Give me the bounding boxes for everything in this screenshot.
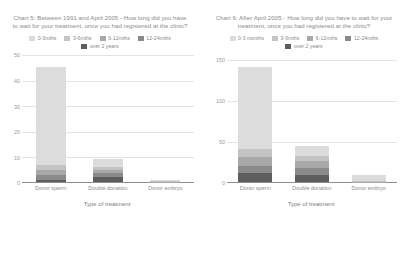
y-tick-50: 50	[14, 52, 20, 58]
y-tick-50: 50	[219, 139, 225, 145]
legend-swatch-over-2-years	[81, 44, 87, 49]
seg-0-3mths	[238, 67, 272, 150]
x-label-donor-sperm: Donor sperm	[235, 185, 275, 191]
seg-6-12mths	[238, 157, 272, 166]
legend-item-3-6mths: 3-6mths	[272, 35, 299, 41]
seg-3-6mths	[238, 149, 272, 156]
x-label-double-donation: Double donation	[88, 185, 128, 191]
legend-swatch-3-6mths	[64, 36, 70, 41]
chart-6-legend: 0-3 months 3-6mths 6-12mths 12-24mths ov…	[220, 35, 388, 49]
legend-label-12-24mths: 12-24mths	[354, 35, 379, 41]
chart-6-y-axis: 150 100 50 0	[211, 55, 227, 183]
legend-label-3-6mths: 3-6mths	[281, 35, 300, 41]
legend-swatch-3-6mths	[272, 36, 278, 41]
chart-5-x-axis-title: Type of treatment	[6, 201, 194, 207]
chart-5-plot	[22, 55, 194, 183]
bar-donor-sperm[interactable]	[36, 67, 66, 182]
seg-12-24mths	[238, 166, 272, 173]
x-label-donor-embryo: Donor embryo	[349, 185, 389, 191]
y-tick-20: 20	[14, 129, 20, 135]
seg-12-24mths	[295, 168, 329, 175]
seg-over-2-years	[93, 177, 123, 182]
chart-6-title: Chart 6: After April 2005 - How long did…	[214, 14, 394, 30]
chart-6-plot	[227, 55, 397, 183]
chart-5-legend: 0-3mths 3-6mths 6-12mths 12-24mths over …	[16, 35, 184, 49]
legend-swatch-0-3mths	[29, 36, 35, 41]
seg-6-12mths	[150, 182, 180, 183]
seg-6-12mths	[295, 161, 329, 168]
legend-swatch-over-2-years	[285, 44, 291, 49]
bar-double-donation[interactable]	[93, 159, 123, 182]
legend-item-12-24mths: 12-24mths	[345, 35, 378, 41]
x-label-donor-embryo: Donor embryo	[145, 185, 185, 191]
seg-over-2-years	[36, 180, 66, 183]
legend-label-3-6mths: 3-6mths	[73, 35, 92, 41]
chart-panel-6: Chart 6: After April 2005 - How long did…	[202, 0, 404, 263]
legend-item-over-2-years: over 2 years	[81, 43, 118, 49]
legend-item-0-3-months: 0-3 months	[230, 35, 264, 41]
legend-swatch-6-12mths	[307, 36, 313, 41]
bar-donor-embryo[interactable]	[150, 180, 180, 183]
seg-0-3mths	[93, 159, 123, 167]
legend-item-12-24mths: 12-24mths	[138, 35, 171, 41]
chart-panel-5: Chart 5: Between 1991 and April 2005 - H…	[0, 0, 202, 263]
y-tick-150: 150	[216, 57, 225, 63]
seg-over-2-years	[238, 173, 272, 182]
bar-donor-embryo[interactable]	[352, 175, 386, 182]
legend-item-over-2-years: over 2 years	[285, 43, 322, 49]
legend-label-over-2-years: over 2 years	[90, 43, 119, 49]
bar-donor-sperm[interactable]	[238, 67, 272, 182]
chart-6-x-axis-title: Type of treatment	[210, 201, 398, 207]
chart-5-title: Chart 5: Between 1991 and April 2005 - H…	[12, 14, 188, 30]
chart-6-x-labels: Donor sperm Double donation Donor embryo	[211, 185, 397, 191]
chart-5-x-labels: Donor sperm Double donation Donor embryo	[6, 185, 194, 191]
y-tick-100: 100	[216, 98, 225, 104]
chart-5-y-axis: 50 40 30 20 10 0	[6, 55, 22, 183]
legend-label-6-12mths: 6-12mths	[108, 35, 130, 41]
bar-double-donation[interactable]	[295, 146, 329, 182]
charts-page: Chart 5: Between 1991 and April 2005 - H…	[0, 0, 404, 263]
y-tick-40: 40	[14, 78, 20, 84]
legend-item-6-12mths: 6-12mths	[100, 35, 130, 41]
chart-5-plot-area: 50 40 30 20 10 0	[6, 55, 194, 183]
legend-label-0-3-months: 0-3 months	[238, 35, 264, 41]
legend-label-over-2-years: over 2 years	[294, 43, 323, 49]
legend-swatch-12-24mths	[138, 36, 144, 41]
legend-item-3-6mths: 3-6mths	[64, 35, 91, 41]
seg-over-2-years	[295, 175, 329, 182]
legend-label-6-12mths: 6-12mths	[316, 35, 338, 41]
y-tick-10: 10	[14, 155, 20, 161]
legend-swatch-12-24mths	[345, 36, 351, 41]
legend-swatch-0-3-months	[230, 36, 236, 41]
legend-label-12-24mths: 12-24mths	[146, 35, 171, 41]
x-label-double-donation: Double donation	[292, 185, 332, 191]
y-tick-30: 30	[14, 104, 20, 110]
chart-5-bars	[22, 55, 194, 182]
x-label-donor-sperm: Donor sperm	[31, 185, 71, 191]
legend-swatch-6-12mths	[100, 36, 106, 41]
legend-item-6-12mths: 6-12mths	[307, 35, 337, 41]
chart-6-bars	[227, 55, 397, 182]
seg-0-3mths	[36, 67, 66, 164]
legend-item-0-3mths: 0-3mths	[29, 35, 56, 41]
seg-0-3mths	[295, 146, 329, 156]
chart-6-plot-area: 150 100 50 0	[211, 55, 397, 183]
seg-6-12mths	[352, 182, 386, 183]
legend-label-0-3mths: 0-3mths	[38, 35, 57, 41]
